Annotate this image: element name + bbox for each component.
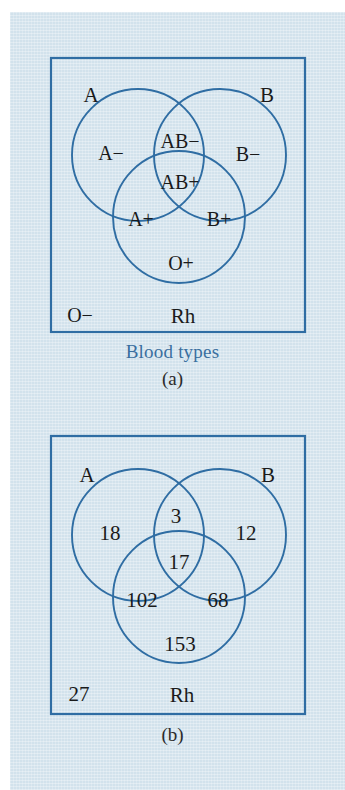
region-value-b-only: 12 [236, 521, 257, 545]
circle-set-b-b-panel [154, 469, 286, 601]
venn-diagram-b-svg: A B Rh 18 12 3 17 102 68 153 27 [0, 378, 345, 718]
set-label-a-b-panel: A [79, 463, 95, 487]
circle-set-a-b-panel [72, 469, 204, 601]
set-label-a: A [83, 83, 99, 107]
set-label-rh-b-panel: Rh [170, 683, 195, 707]
venn-figure-b: A B Rh 18 12 3 17 102 68 153 27 [0, 378, 345, 718]
region-label-outside: O− [67, 304, 93, 326]
set-label-rh: Rh [171, 304, 196, 328]
region-value-outside: 27 [69, 682, 90, 706]
region-value-a-b-rh: 17 [169, 550, 190, 574]
caption-label-b: (b) [0, 724, 345, 746]
region-label-b-only: B− [236, 143, 261, 165]
set-label-b: B [260, 83, 274, 107]
region-value-a-and-rh: 102 [126, 588, 158, 612]
region-value-a-only: 18 [100, 521, 121, 545]
caption-blood-types: Blood types [0, 341, 345, 363]
region-value-rh-only: 153 [164, 632, 196, 656]
region-label-a-b-rh: AB+ [160, 171, 199, 193]
region-label-a-and-rh: A+ [128, 208, 154, 230]
region-label-a-and-b: AB− [160, 130, 199, 152]
set-label-b-b-panel: B [261, 463, 275, 487]
venn-figure-a: A B Rh A− B− AB− AB+ A+ B+ O+ O− [0, 0, 345, 345]
figure-page: A B Rh A− B− AB− AB+ A+ B+ O+ O− Blood t… [0, 0, 345, 790]
venn-diagram-a-svg: A B Rh A− B− AB− AB+ A+ B+ O+ O− [0, 0, 345, 345]
region-label-a-only: A− [98, 142, 124, 164]
region-label-b-and-rh: B+ [207, 208, 232, 230]
circle-set-a [72, 89, 204, 221]
circle-set-b [154, 89, 286, 221]
region-label-rh-only: O+ [168, 252, 194, 274]
region-value-b-and-rh: 68 [208, 588, 229, 612]
region-value-a-and-b: 3 [171, 504, 182, 528]
